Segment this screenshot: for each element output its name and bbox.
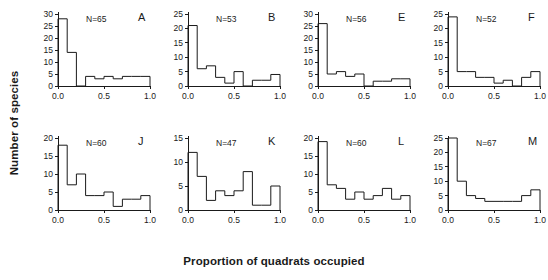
y-axis-tick-label: 10 <box>44 169 54 179</box>
y-axis-tick-label: 15 <box>174 38 184 48</box>
y-axis-tick-label: 20 <box>434 147 444 157</box>
y-axis-tick-label: 10 <box>434 176 444 186</box>
x-axis-tick-label: 0.0 <box>312 215 324 225</box>
y-axis-tick-label: 5 <box>308 187 313 197</box>
y-axis-tick-label: 0 <box>438 205 443 215</box>
x-axis-tick-label: 0.5 <box>98 215 110 225</box>
y-axis-tick-label: 0 <box>48 81 53 91</box>
y-axis-tick-label: 0 <box>438 81 443 91</box>
y-axis-tick-label: 15 <box>434 162 444 172</box>
panel-sample-size-label: N=56 <box>346 14 367 24</box>
panel-sample-size-label: N=52 <box>476 14 497 24</box>
panel-sample-size-label: N=53 <box>216 14 237 24</box>
x-axis-tick-label: 1.0 <box>144 91 156 101</box>
panel-letter-label: M <box>528 135 537 147</box>
y-axis-tick-label: 5 <box>438 67 443 77</box>
y-axis-tick-label: 15 <box>44 151 54 161</box>
x-axis-tick-label: 0.5 <box>98 91 110 101</box>
x-axis-tick-label: 0.0 <box>52 91 64 101</box>
panel-plot-b: 05101520250.00.51.0 <box>158 6 288 130</box>
x-axis-tick-label: 1.0 <box>534 91 546 101</box>
histogram-outline <box>58 145 150 210</box>
panel-plot-e: 0510152025300.00.51.0 <box>288 6 418 130</box>
y-axis-tick-label: 25 <box>434 9 444 19</box>
panel-b: 05101520250.00.51.0N=53B <box>158 6 288 124</box>
x-axis-tick-label: 0.0 <box>442 91 454 101</box>
y-axis-tick-label: 0 <box>178 205 183 215</box>
x-axis-tick-label: 0.5 <box>488 215 500 225</box>
panel-letter-label: E <box>398 11 405 23</box>
y-axis-tick-label: 10 <box>174 157 184 167</box>
x-axis-tick-label: 0.0 <box>442 215 454 225</box>
y-axis-tick-label: 10 <box>44 57 54 67</box>
panel-letter-label: K <box>268 135 275 147</box>
figure-histogram-grid: Number of species 0510152025300.00.51.0N… <box>0 0 548 280</box>
y-axis-tick-label: 30 <box>304 9 314 19</box>
panel-grid: 0510152025300.00.51.0N=65A05101520250.00… <box>28 6 548 252</box>
y-axis-tick-label: 5 <box>48 187 53 197</box>
x-axis-tick-label: 1.0 <box>144 215 156 225</box>
y-axis-tick-label: 0 <box>178 81 183 91</box>
y-axis-tick-label: 0 <box>48 205 53 215</box>
x-axis-tick-label: 1.0 <box>274 215 286 225</box>
y-axis-tick-label: 30 <box>44 9 54 19</box>
panel-e: 0510152025300.00.51.0N=56E <box>288 6 418 124</box>
histogram-outline <box>318 142 410 210</box>
y-axis-tick-label: 0 <box>308 205 313 215</box>
x-axis-tick-label: 0.5 <box>228 215 240 225</box>
panel-letter-label: F <box>528 11 535 23</box>
panel-k: 0510150.00.51.0N=47K <box>158 130 288 248</box>
panel-plot-k: 0510150.00.51.0 <box>158 130 288 254</box>
y-axis-tick-label: 25 <box>434 133 444 143</box>
y-axis-tick-label: 10 <box>304 169 314 179</box>
panel-plot-j: 051015200.00.51.0 <box>28 130 158 254</box>
x-axis-tick-label: 0.0 <box>182 91 194 101</box>
x-axis-tick-label: 0.0 <box>52 215 64 225</box>
y-axis-tick-label: 5 <box>48 69 53 79</box>
y-axis-tick-label: 15 <box>304 151 314 161</box>
panel-f: 05101520250.00.51.0N=52F <box>418 6 548 124</box>
y-axis-label-text: Number of species <box>8 71 20 176</box>
panel-sample-size-label: N=65 <box>86 14 107 24</box>
panel-plot-m: 05101520250.00.51.0 <box>418 130 548 254</box>
y-axis-tick-label: 20 <box>44 133 54 143</box>
x-axis-tick-label: 1.0 <box>404 91 416 101</box>
panel-j: 051015200.00.51.0N=60J <box>28 130 158 248</box>
x-axis-tick-label: 1.0 <box>534 215 546 225</box>
panel-sample-size-label: N=47 <box>216 138 237 148</box>
y-axis-tick-label: 20 <box>304 133 314 143</box>
y-axis-tick-label: 20 <box>434 23 444 33</box>
y-axis-tick-label: 15 <box>174 133 184 143</box>
histogram-outline <box>318 24 410 86</box>
y-axis-tick-label: 10 <box>304 57 314 67</box>
y-axis-tick-label: 15 <box>434 38 444 48</box>
panel-sample-size-label: N=60 <box>86 138 107 148</box>
y-axis-tick-label: 5 <box>308 69 313 79</box>
x-axis-tick-label: 0.0 <box>312 91 324 101</box>
y-axis-tick-label: 5 <box>438 191 443 201</box>
x-axis-tick-label: 0.0 <box>182 215 194 225</box>
histogram-outline <box>188 26 280 86</box>
panel-l: 051015200.00.51.0N=60L <box>288 130 418 248</box>
x-axis-tick-label: 0.5 <box>358 215 370 225</box>
y-axis-tick-label: 10 <box>434 52 444 62</box>
y-axis-tick-label: 5 <box>178 67 183 77</box>
y-axis-tick-label: 0 <box>308 81 313 91</box>
y-axis-label: Number of species <box>0 0 28 246</box>
panel-letter-label: J <box>138 135 144 147</box>
panel-plot-f: 05101520250.00.51.0 <box>418 6 548 130</box>
panel-letter-label: L <box>398 135 404 147</box>
x-axis-tick-label: 1.0 <box>404 215 416 225</box>
y-axis-tick-label: 20 <box>44 33 54 43</box>
y-axis-tick-label: 25 <box>304 21 314 31</box>
histogram-outline <box>58 19 150 86</box>
panel-letter-label: B <box>268 11 275 23</box>
histogram-outline <box>448 138 540 210</box>
y-axis-tick-label: 20 <box>304 33 314 43</box>
y-axis-tick-label: 25 <box>44 21 54 31</box>
x-axis-label-text: Proportion of quadrats occupied <box>183 255 364 267</box>
panel-sample-size-label: N=60 <box>346 138 367 148</box>
histogram-outline <box>188 152 280 210</box>
panel-letter-label: A <box>138 11 145 23</box>
panel-plot-a: 0510152025300.00.51.0 <box>28 6 158 130</box>
